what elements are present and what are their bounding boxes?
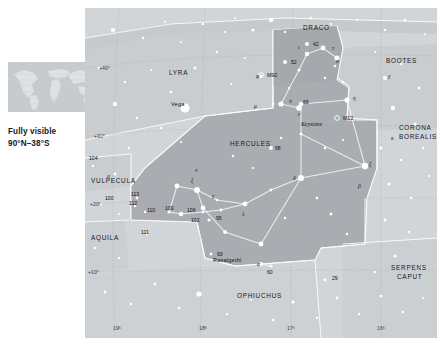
region-aquila (85, 220, 129, 274)
region-hercules-west (131, 184, 197, 222)
label-flamsteed-109: 109 (165, 205, 174, 211)
label-caput: CAPUT (397, 273, 422, 280)
label-flamsteed-69: 69 (303, 99, 309, 105)
label-flamsteed-95: 95 (216, 215, 222, 221)
ra-tick-18: 18ʰ (199, 325, 207, 331)
info-panel: Fully visible 90°N–38°S (0, 0, 85, 351)
label-greek-kappa: κ (391, 135, 394, 141)
ra-tick-19: 19ʰ (113, 325, 121, 331)
label-borealis: BOREALIS (399, 133, 437, 140)
label-rasalgethi: Rasalgethi (213, 257, 241, 263)
label-flamsteed-113: 113 (131, 191, 139, 197)
label-hercules: HERCULES (230, 140, 271, 147)
label-flamsteed-106: 106 (187, 207, 196, 213)
label-greek-omicron: ο (107, 173, 110, 179)
label-greek-mu: μ (254, 103, 257, 109)
label-flamsteed-110: 110 (147, 207, 155, 213)
label-flamsteed-60: 60 (267, 269, 273, 275)
dec-tick-20: +20° (90, 201, 101, 207)
region-hercules-north (273, 26, 343, 86)
label-greek-delta: δ (293, 175, 296, 181)
label-greek-sigma: σ (336, 58, 339, 64)
dec-tick-10: +10° (88, 269, 99, 275)
label-ophiuchus: OPHIUCHUS (237, 292, 282, 299)
label-flamsteed-52: 52 (291, 59, 297, 65)
label-flamsteed-111: 111 (141, 229, 149, 235)
dec-tick-40: +40° (99, 65, 110, 71)
star-chart-canvas: DRACO LYRA BOOTES CORONA BOREALIS HERCUL… (85, 8, 437, 338)
label-draco: DRACO (303, 24, 330, 31)
label-m13: M13 (343, 115, 353, 121)
label-serpens: SERPENS (391, 264, 427, 271)
label-flamsteed-102: 102 (191, 217, 200, 223)
label-bootes: BOOTES (386, 57, 417, 64)
label-vulpecula: VULPECULA (91, 177, 136, 184)
region-serpens-caput (343, 238, 437, 338)
label-vega: Vega (171, 101, 185, 107)
label-greek-beta: β (357, 183, 361, 189)
label-flamsteed-68: 68 (275, 145, 281, 151)
star-chart: DRACO LYRA BOOTES CORONA BOREALIS HERCUL… (85, 8, 437, 338)
ra-tick-17: 17ʰ (287, 325, 295, 331)
label-flamsteed-42: 42 (313, 41, 319, 47)
label-flamsteed-29: 29 (332, 275, 338, 281)
label-corona: CORONA (399, 124, 432, 131)
label-m92: M92 (267, 72, 277, 78)
label-keystone: Keystone (300, 121, 323, 127)
label-flamsteed-104: 104 (89, 155, 98, 161)
label-greek-lambda: λ (241, 211, 245, 217)
label-greek-eta: η (353, 95, 356, 101)
label-aquila: AQUILA (91, 234, 119, 242)
label-greek-pi: π (289, 98, 292, 104)
label-greek-chi: χ (387, 73, 391, 79)
label-flamsteed-93: 93 (217, 251, 223, 257)
ra-tick-16: 16ʰ (377, 325, 385, 331)
label-lyra: LYRA (169, 69, 188, 76)
label-flamsteed-100: 100 (105, 195, 114, 201)
label-greek-phi: φ (256, 73, 259, 79)
dec-tick-30: +30° (94, 133, 105, 139)
label-flamsteed-112: 112 (129, 200, 137, 206)
